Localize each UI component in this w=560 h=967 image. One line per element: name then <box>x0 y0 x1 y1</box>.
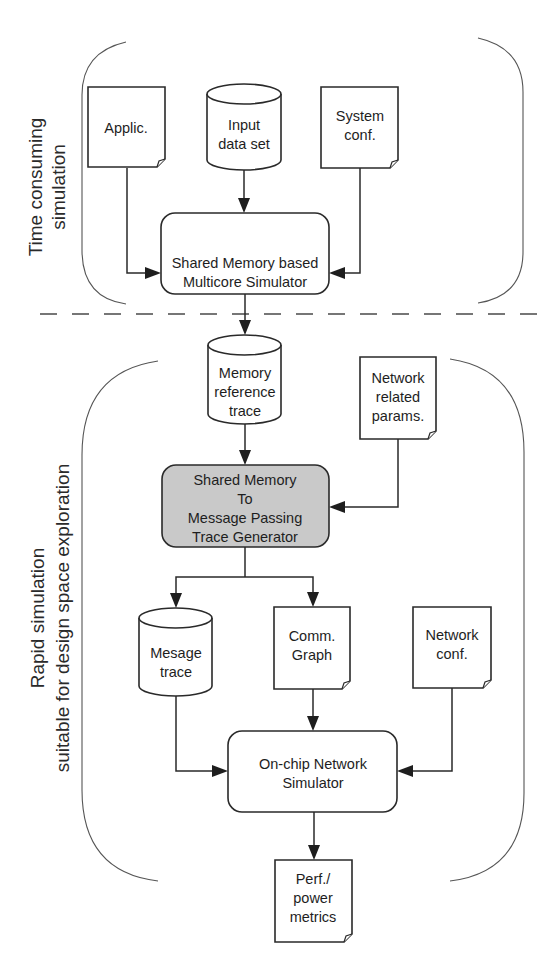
node-network-conf-label-2: conf. <box>436 646 467 662</box>
node-trace-generator-label-3: Message Passing <box>188 510 302 526</box>
node-system-conf-label-2: conf. <box>344 127 375 143</box>
section-label-top: Time consuming simulation <box>25 118 69 257</box>
node-network-related-params-label-3: params. <box>372 408 424 424</box>
section-label-top-line-1: Time consuming <box>25 118 46 257</box>
node-comm-graph-label-1: Comm. <box>289 628 336 644</box>
arrowhead-icon <box>307 592 319 607</box>
node-memory-reference-trace-label-3: trace <box>229 403 261 419</box>
node-perf-power-metrics: Perf./ power metrics <box>275 860 352 942</box>
node-network-related-params-label-2: related <box>376 389 420 405</box>
node-comm-graph-label-2: Graph <box>292 647 332 663</box>
section-label-top-line-2: simulation <box>48 144 69 230</box>
arrowhead-icon <box>239 450 251 465</box>
node-input-data-label-2: data set <box>218 136 270 152</box>
node-applic: Applic. <box>88 87 165 167</box>
node-trace-generator: Shared Memory To Message Passing Trace G… <box>162 465 329 547</box>
node-trace-generator-label-4: Trace Generator <box>192 529 298 545</box>
node-memory-reference-trace-label-1: Memory <box>219 365 272 381</box>
edge-applic-to-multicore <box>127 168 150 273</box>
node-message-trace-label-1: Mesage <box>150 645 202 661</box>
flow-diagram: Time consuming simulation Rapid simulati… <box>0 0 560 967</box>
node-network-related-params: Network related params. <box>360 357 436 439</box>
node-perf-power-metrics-label-1: Perf./ <box>296 871 332 887</box>
node-noc-simulator-label-1: On-chip Network <box>259 756 368 772</box>
database-top-icon <box>139 608 212 628</box>
section-label-bottom-line-1: Rapid simulation <box>27 548 48 688</box>
edge-tracegen-to-msgtrace <box>176 577 245 597</box>
arrowhead-icon <box>145 267 161 279</box>
node-message-trace-label-2: trace <box>160 664 192 680</box>
arrowhead-icon <box>238 198 250 213</box>
node-network-related-params-label-1: Network <box>371 370 425 386</box>
node-multicore-simulator-label-1: Shared Memory based <box>172 255 319 271</box>
node-memory-reference-trace-label-2: reference <box>214 384 275 400</box>
node-multicore-simulator-label-2: Multicore Simulator <box>183 274 307 290</box>
node-system-conf: System conf. <box>321 87 398 168</box>
node-noc-simulator-label-2: Simulator <box>282 775 343 791</box>
arrowhead-icon <box>239 320 251 335</box>
arrowhead-icon <box>329 501 345 513</box>
node-perf-power-metrics-label-2: power <box>293 890 333 906</box>
edge-netconf-to-noc <box>408 688 452 771</box>
node-comm-graph: Comm. Graph <box>274 607 350 689</box>
arrowhead-icon <box>170 593 182 608</box>
edge-tracegen-to-commgraph <box>245 577 313 596</box>
node-noc-simulator: On-chip Network Simulator <box>228 731 397 812</box>
node-system-conf-label-1: System <box>336 108 384 124</box>
node-input-data: Input data set <box>207 84 281 170</box>
node-input-data-label-1: Input <box>228 117 260 133</box>
arrowhead-icon <box>212 765 228 777</box>
node-network-conf: Network conf. <box>413 607 491 688</box>
node-applic-label: Applic. <box>104 120 148 136</box>
arrowhead-icon <box>329 267 345 279</box>
database-top-icon <box>208 335 281 355</box>
database-top-icon <box>207 84 281 104</box>
edge-msgtrace-to-noc <box>176 696 217 771</box>
arrowhead-icon <box>397 765 413 777</box>
arrowhead-icon <box>307 716 319 731</box>
section-label-bottom: Rapid simulation suitable for design spa… <box>27 464 73 772</box>
node-multicore-simulator: Shared Memory based Multicore Simulator <box>161 213 329 294</box>
node-memory-reference-trace: Memory reference trace <box>208 335 281 424</box>
node-network-conf-label-1: Network <box>425 627 479 643</box>
edge-netparams-to-tracegen <box>340 439 398 507</box>
node-trace-generator-label-2: To <box>237 491 252 507</box>
node-message-trace: Mesage trace <box>139 608 212 696</box>
top-section-bracket-right <box>478 38 523 303</box>
section-label-bottom-line-2: suitable for design space exploration <box>52 464 73 772</box>
edge-sysconf-to-multicore <box>340 168 360 273</box>
arrowhead-icon <box>308 845 320 860</box>
top-section-bracket-left <box>82 42 126 304</box>
node-perf-power-metrics-label-3: metrics <box>290 909 337 925</box>
node-trace-generator-label-1: Shared Memory <box>193 472 297 488</box>
